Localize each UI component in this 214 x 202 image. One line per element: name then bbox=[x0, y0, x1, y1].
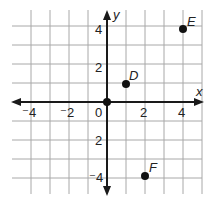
y-axis-arrow-down-icon bbox=[103, 186, 111, 196]
y-tick-label: ⁻4 bbox=[89, 170, 103, 185]
x-tick-label: 0 bbox=[95, 105, 102, 120]
point-f bbox=[141, 172, 149, 180]
x-axis-label: x bbox=[195, 84, 203, 99]
y-axis-label: y bbox=[112, 7, 121, 22]
point-e-label: E bbox=[187, 14, 196, 29]
point-origin bbox=[103, 98, 111, 106]
y-axis-arrow-up-icon bbox=[103, 10, 111, 20]
x-tick-label: 4 bbox=[178, 105, 185, 120]
y-tick-label: 4 bbox=[95, 22, 102, 37]
y-tick-label: 2 bbox=[95, 133, 102, 148]
point-f-label: F bbox=[149, 160, 158, 175]
x-tick-label: 2 bbox=[140, 105, 147, 120]
coordinate-plane: x y ⁻4 ⁻2 0 2 4 4 2 2 ⁻4 D E F bbox=[0, 0, 214, 202]
x-tick-label: ⁻2 bbox=[60, 105, 74, 120]
x-axis-arrow-left-icon bbox=[11, 98, 21, 106]
point-d-label: D bbox=[129, 68, 138, 83]
x-tick-label: ⁻4 bbox=[22, 105, 36, 120]
y-tick-label: 2 bbox=[95, 60, 102, 75]
point-e bbox=[179, 25, 187, 33]
